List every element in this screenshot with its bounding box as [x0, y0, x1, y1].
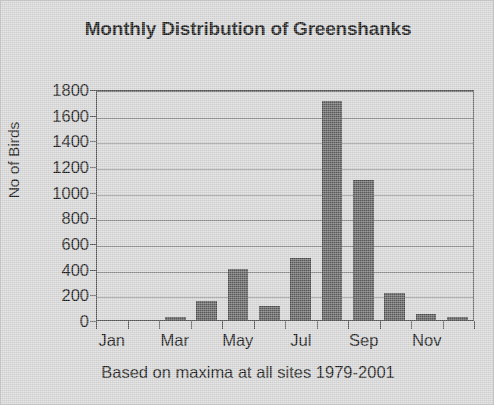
x-axis-tick-label — [191, 331, 223, 355]
bar[interactable] — [228, 269, 249, 320]
bar[interactable] — [322, 101, 343, 320]
y-axis-tick-label: 400 — [61, 260, 89, 279]
x-axis-tick-label — [128, 331, 160, 355]
y-axis-tick-label: 1000 — [52, 183, 89, 202]
bar[interactable] — [416, 314, 437, 320]
y-axis-tick-label: 0 — [80, 312, 89, 331]
bar[interactable] — [353, 180, 374, 320]
bar-slot — [191, 92, 222, 320]
bar[interactable] — [196, 301, 217, 320]
bar-slot — [348, 92, 379, 320]
bar[interactable] — [384, 293, 405, 320]
x-axis-tick-mark — [96, 321, 97, 329]
bar-slot — [285, 92, 316, 320]
x-axis-tick-label — [380, 331, 412, 355]
x-axis-tick-label: Jan — [96, 331, 128, 355]
x-axis-tick-label — [254, 331, 286, 355]
y-axis-tick-labels: 020040060080010001200140016001800 — [31, 90, 89, 321]
x-axis-caption: Based on maxima at all sites 1979-2001 — [1, 363, 494, 382]
x-axis-tick-mark — [317, 321, 318, 329]
x-axis-tick-mark — [411, 321, 412, 329]
x-axis-tick-mark — [254, 321, 255, 329]
x-axis-tick-label: Sep — [348, 331, 380, 355]
bar-slot — [254, 92, 285, 320]
x-axis-tick-label: Mar — [159, 331, 191, 355]
bar-slot — [128, 92, 159, 320]
x-axis-tick-label: Jul — [285, 331, 317, 355]
bar[interactable] — [447, 317, 468, 320]
x-axis-tick-mark — [285, 321, 286, 329]
plot-area — [96, 90, 474, 321]
y-axis-title: No of Birds — [5, 100, 23, 220]
x-axis-tick-mark — [380, 321, 381, 329]
x-axis-tick-mark — [474, 321, 475, 329]
bar-slot — [97, 92, 128, 320]
y-axis-tick-label: 600 — [61, 235, 89, 254]
bar-slot — [160, 92, 191, 320]
bar-slot — [410, 92, 441, 320]
bar-slot — [442, 92, 473, 320]
chart-figure: Monthly Distribution of Greenshanks No o… — [0, 0, 494, 405]
y-axis-tick-label: 200 — [61, 286, 89, 305]
x-axis-tick-label — [317, 331, 349, 355]
x-axis-tick-mark — [159, 321, 160, 329]
x-axis-tick-label — [443, 331, 475, 355]
y-axis-tick-label: 1200 — [52, 158, 89, 177]
x-axis-tick-mark — [128, 321, 129, 329]
y-axis-tick-label: 1800 — [52, 81, 89, 100]
x-axis-tick-mark — [348, 321, 349, 329]
x-axis-ticks — [96, 321, 474, 329]
bar-slot — [379, 92, 410, 320]
x-axis-tick-label: Nov — [411, 331, 443, 355]
bar-slot — [316, 92, 347, 320]
bar-series — [97, 92, 473, 320]
x-axis-tick-mark — [191, 321, 192, 329]
x-axis-tick-labels: JanMarMayJulSepNov — [96, 331, 474, 355]
bar[interactable] — [259, 306, 280, 320]
bar-slot — [222, 92, 253, 320]
x-axis-tick-mark — [222, 321, 223, 329]
bar[interactable] — [165, 317, 186, 320]
chart-title: Monthly Distribution of Greenshanks — [1, 18, 494, 40]
bar[interactable] — [290, 258, 311, 320]
y-axis-tick-label: 1400 — [52, 132, 89, 151]
x-axis-tick-mark — [443, 321, 444, 329]
y-axis-tick-label: 800 — [61, 209, 89, 228]
x-axis-tick-label: May — [222, 331, 254, 355]
y-axis-tick-label: 1600 — [52, 106, 89, 125]
